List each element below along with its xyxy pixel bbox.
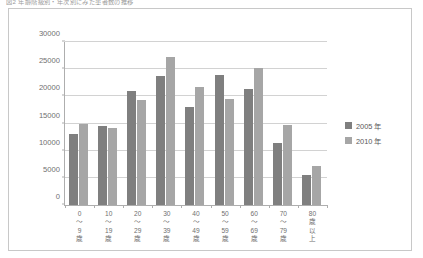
bar — [69, 134, 78, 205]
y-tick-label: 30000 — [39, 29, 60, 38]
y-tick-label: 15000 — [39, 110, 60, 119]
legend-label: 2005 年 — [356, 120, 382, 131]
bar-group — [298, 42, 327, 205]
bar-series-container — [65, 42, 327, 205]
x-tick-label: 70〜79歳 — [269, 210, 297, 244]
x-axis-line — [64, 205, 327, 206]
bar-group — [123, 42, 152, 205]
bar — [312, 166, 321, 205]
x-tick-label: 60〜69歳 — [240, 210, 268, 244]
bar — [215, 75, 224, 205]
bar-group — [94, 42, 123, 205]
x-tick-label: 0〜9歳 — [66, 210, 94, 244]
bar — [108, 128, 117, 205]
bar — [283, 125, 292, 205]
bar-group — [65, 42, 94, 205]
x-tick-mark — [152, 205, 153, 208]
bar — [195, 87, 204, 205]
figure: 図2 年齢階級別・年次別にみた患者数の推移 050001000015000200… — [0, 0, 423, 258]
bar — [166, 57, 175, 205]
bar-group — [211, 42, 240, 205]
figure-caption: 図2 年齢階級別・年次別にみた患者数の推移 — [6, 0, 416, 6]
x-tick-mark — [269, 205, 270, 208]
y-tick-label: 25000 — [39, 56, 60, 65]
y-tick-label: 10000 — [39, 137, 60, 146]
y-tick-label: 20000 — [39, 83, 60, 92]
plot-area: 050001000015000200002500030000 0〜9歳10〜19… — [65, 42, 327, 205]
x-tick-label: 50〜59歳 — [211, 210, 239, 244]
x-tick-mark — [181, 205, 182, 208]
chart-frame: 050001000015000200002500030000 0〜9歳10〜19… — [8, 8, 412, 251]
bar — [254, 68, 263, 205]
x-tick-label: 30〜39歳 — [153, 210, 181, 244]
y-tick-label: 5000 — [43, 164, 60, 173]
x-tick-label: 10〜19歳 — [95, 210, 123, 244]
x-tick-label: 40〜49歳 — [182, 210, 210, 244]
x-tick-mark — [94, 205, 95, 208]
x-tick-mark — [240, 205, 241, 208]
bar — [225, 99, 234, 205]
bar-group — [269, 42, 298, 205]
bar — [127, 91, 136, 205]
x-tick-label: 20〜29歳 — [124, 210, 152, 244]
x-tick-label: 80歳以上 — [298, 210, 326, 244]
bar — [79, 124, 88, 206]
bar-group — [240, 42, 269, 205]
bar-group — [152, 42, 181, 205]
bar — [185, 107, 194, 205]
bar-group — [181, 42, 210, 205]
bar — [302, 175, 311, 205]
legend-swatch-icon — [345, 122, 352, 129]
x-tick-mark — [123, 205, 124, 208]
x-tick-mark — [327, 205, 328, 208]
x-tick-mark — [298, 205, 299, 208]
y-tick-label: 0 — [56, 192, 60, 201]
legend-item[interactable]: 2005 年 — [345, 119, 382, 131]
bar — [98, 126, 107, 205]
legend-item[interactable]: 2010 年 — [345, 134, 382, 146]
legend-swatch-icon — [345, 137, 352, 144]
x-tick-mark — [211, 205, 212, 208]
bar — [273, 143, 282, 205]
x-tick-mark — [65, 205, 66, 208]
bar — [137, 100, 146, 205]
bar — [156, 76, 165, 205]
bar — [244, 89, 253, 205]
legend-label: 2010 年 — [356, 135, 382, 146]
chart-legend: 2005 年2010 年 — [345, 119, 382, 149]
